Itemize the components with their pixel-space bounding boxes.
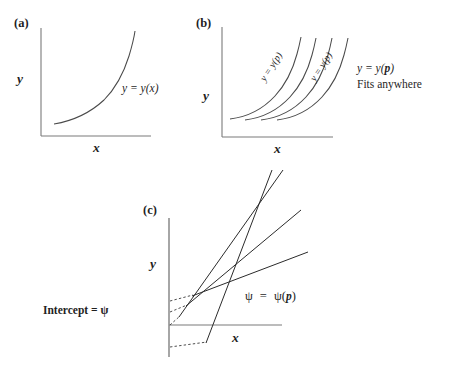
panel-b-curve-label-2: y = y(p) bbox=[307, 49, 336, 84]
panel-c-psi-equation: ψ=ψ(p) bbox=[245, 289, 296, 303]
panel-c-x-label: x bbox=[231, 330, 239, 345]
panel-a-equation: y = y(x) bbox=[121, 82, 159, 95]
figure-root: (a) y x y = y(x) (b) y x bbox=[0, 0, 458, 377]
panel-c-psi-lhs: ψ bbox=[245, 289, 253, 303]
figure-canvas: (a) y x y = y(x) (b) y x bbox=[0, 0, 458, 377]
panel-b: (b) y x y = y(p) y = y(p) y = y(p) Fits … bbox=[196, 16, 422, 156]
panel-a-tag: (a) bbox=[14, 16, 29, 30]
panel-b-fits-anywhere: Fits anywhere bbox=[357, 78, 422, 91]
panel-c-tag: (c) bbox=[143, 203, 157, 217]
panel-b-x-label: x bbox=[273, 141, 281, 156]
panel-c-psi-rhs: ψ( bbox=[274, 289, 286, 303]
panel-a-x-label: x bbox=[92, 140, 100, 155]
panel-b-curve-label-1: y = y(p) bbox=[257, 49, 286, 84]
panel-c-line-steepest bbox=[206, 170, 272, 343]
panel-c-line-steep bbox=[179, 170, 283, 317]
panel-c-intercept-label: Intercept = ψ bbox=[43, 304, 108, 317]
panel-b-equation-prefix: y = y( bbox=[356, 62, 386, 75]
panel-b-tag: (b) bbox=[196, 16, 211, 30]
panel-c-dashed-steepest bbox=[170, 342, 207, 347]
panel-c-dashed-shallow bbox=[170, 295, 193, 301]
panel-b-y-label: y bbox=[201, 88, 210, 103]
panel-c-y-label: y bbox=[148, 256, 157, 271]
panel-b-curve-2 bbox=[245, 38, 316, 120]
panel-a-y-label: y bbox=[15, 71, 24, 86]
panel-c-psi-close: ) bbox=[292, 289, 296, 303]
panel-c: (c) y x Intercept = ψ ψ=ψ(p) bbox=[43, 170, 308, 357]
panel-b-equation-suffix: ) bbox=[389, 62, 394, 75]
panel-b-curve-3 bbox=[261, 38, 332, 120]
panel-c-psi-equals: = bbox=[260, 289, 267, 303]
panel-b-equation-line: y = y(p) bbox=[356, 62, 394, 75]
panel-a-curve bbox=[54, 31, 135, 124]
panel-a: (a) y x y = y(x) bbox=[14, 16, 159, 155]
panel-b-annotation: y = y(p) Fits anywhere bbox=[356, 62, 422, 91]
panel-c-dashed-steep bbox=[170, 316, 180, 325]
